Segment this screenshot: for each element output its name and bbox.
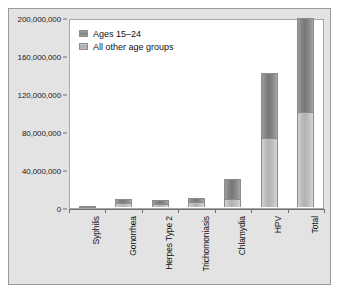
bar-segment-all-other-age-groups [79,207,96,208]
bar-segment-ages-15-24 [261,73,278,138]
chart-figure: 040,000,00080,000,000120,000,000160,000,… [8,8,331,285]
bar-segment-ages-15-24 [297,18,314,112]
x-axis-tick-mark [324,209,325,213]
bar-chlamydia [224,179,241,208]
y-axis-tick-label: 120,000,000 [18,91,61,100]
bar-segment-all-other-age-groups [297,112,314,207]
y-axis-tick-label: 0 [57,205,61,214]
y-axis-tick-label: 40,000,000 [22,167,61,176]
bar-hpv [261,73,278,207]
bar-trichomoniasis [188,198,205,208]
x-axis-tick-mark [215,209,216,213]
bar-segment-all-other-age-groups [188,202,205,207]
y-axis-tick-mark [63,171,67,172]
x-axis-tick-mark [178,209,179,213]
y-axis-tick-mark [63,95,67,96]
x-axis-line [69,209,324,210]
y-axis-tick-mark [63,19,67,20]
x-axis-label-herpes-type-2: Herpes Type 2 [164,216,174,270]
bar-total [297,18,314,207]
bar-segment-ages-15-24 [224,179,241,200]
x-axis-label-chlamydia: Chlamydia [237,216,247,255]
x-axis-label-total: Total [310,216,320,233]
legend-item: All other age groups [79,41,174,52]
x-axis-tick-mark [69,209,70,213]
y-axis: 040,000,00080,000,000120,000,000160,000,… [9,9,69,219]
bar-gonorrhea [115,199,132,207]
y-axis-tick-label: 200,000,000 [18,15,61,24]
x-axis-label-syphilis: Syphilis [91,216,101,245]
bar-segment-all-other-age-groups [152,204,169,207]
legend-item-label: Ages 15–24 [93,29,141,39]
y-axis-tick-mark [63,209,67,210]
legend-item: Ages 15–24 [79,28,174,39]
y-axis-tick-mark [63,133,67,134]
bar-segment-all-other-age-groups [115,203,132,207]
x-axis-label-hpv: HPV [273,216,283,233]
legend-item-label: All other age groups [93,42,174,52]
y-axis-tick-label: 80,000,000 [22,129,61,138]
x-axis-label-gonorrhea: Gonorrhea [128,216,138,256]
x-axis-label-trichomoniasis: Trichomoniasis [201,216,211,271]
bar-segment-all-other-age-groups [224,199,241,207]
x-axis-tick-mark [251,209,252,213]
x-axis-tick-mark [288,209,289,213]
bar-herpes-type-2 [152,200,169,207]
bar-syphilis [79,206,96,207]
x-axis-tick-mark [105,209,106,213]
legend-swatch-icon [79,30,88,37]
legend-swatch-icon [79,43,88,50]
chart-legend: Ages 15–24All other age groups [75,25,178,57]
x-axis-tick-mark [142,209,143,213]
y-axis-tick-label: 160,000,000 [18,53,61,62]
y-axis-tick-mark [63,57,67,58]
bar-segment-all-other-age-groups [261,138,278,207]
